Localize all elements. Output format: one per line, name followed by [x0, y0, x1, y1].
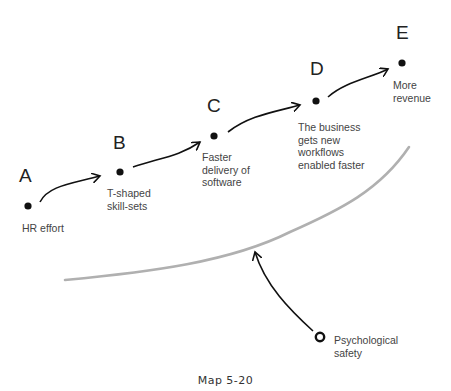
node-d-dot[interactable] [312, 97, 319, 104]
node-a-letter: A [19, 166, 32, 185]
node-e-letter: E [396, 23, 409, 42]
node-b-letter: B [113, 133, 126, 152]
arrow-a-to-b [40, 176, 100, 202]
arrow-d-to-e [328, 69, 388, 97]
arrow-c-to-d [228, 105, 300, 132]
node-e-label: More revenue [393, 79, 431, 104]
node-b-label: T-shaped skill-sets [107, 187, 151, 212]
node-c-dot[interactable] [210, 132, 217, 139]
node-e-dot[interactable] [398, 59, 405, 66]
node-a-dot[interactable] [24, 202, 31, 209]
node-d-label: The business gets new workflows enabled … [298, 121, 365, 171]
node-c-label: Faster delivery of software [202, 151, 250, 189]
enabler-circle[interactable] [316, 333, 324, 341]
node-b-dot[interactable] [116, 168, 123, 175]
enabler-label: Psychological safety [334, 334, 398, 359]
map-canvas [0, 0, 451, 391]
node-c-letter: C [207, 96, 221, 115]
node-a-label: HR effort [22, 222, 64, 235]
figure-caption: Map 5-20 [0, 374, 451, 387]
node-d-letter: D [310, 59, 324, 78]
arrow-enabler-to-boundary [255, 252, 313, 331]
arrow-b-to-c [133, 142, 200, 167]
